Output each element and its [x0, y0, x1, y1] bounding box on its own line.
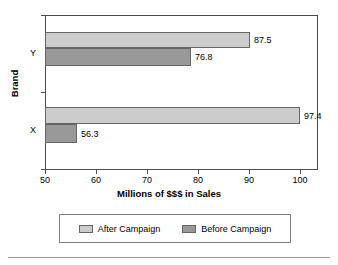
- bottom-divider-rule: [8, 257, 330, 258]
- ytick-mark-middle: [41, 92, 45, 93]
- y-axis-title: Brand: [9, 54, 20, 114]
- xtick-mark-50: [45, 170, 46, 174]
- xtick-mark-80: [198, 170, 199, 174]
- bar-x-before-campaign[interactable]: [45, 124, 77, 143]
- bar-label-y-after-campaign: 87.5: [254, 35, 272, 45]
- xtick-mark-60: [96, 170, 97, 174]
- xtick-mark-90: [249, 170, 250, 174]
- y-category-label-brand-x: X: [26, 125, 40, 135]
- xtick-label-90: 90: [234, 175, 264, 186]
- bar-label-y-before-campaign: 76.8: [195, 52, 213, 62]
- legend-swatch-after-campaign: [79, 225, 93, 233]
- bar-label-x-after-campaign: 97.4: [304, 111, 322, 121]
- bar-y-after-campaign[interactable]: [45, 32, 250, 48]
- legend-label-before-campaign: Before Campaign: [201, 224, 271, 234]
- legend-item-before-campaign[interactable]: Before Campaign: [182, 224, 271, 234]
- xtick-label-70: 70: [132, 175, 162, 186]
- xtick-mark-100: [300, 170, 301, 174]
- plot-area: 87.5 76.8 97.4 56.3: [45, 15, 318, 170]
- legend-label-after-campaign: After Campaign: [98, 224, 161, 234]
- ytick-mark-bottom: [41, 169, 45, 170]
- xtick-label-100: 100: [285, 175, 315, 186]
- xtick-label-60: 60: [81, 175, 111, 186]
- bar-x-after-campaign[interactable]: [45, 107, 300, 124]
- chart-legend: After Campaign Before Campaign: [59, 214, 291, 243]
- bar-label-x-before-campaign: 56.3: [81, 129, 99, 139]
- bar-chart-figure: 87.5 76.8 97.4 56.3 50 60 70 80 90 100 M…: [0, 0, 338, 265]
- legend-item-after-campaign[interactable]: After Campaign: [79, 224, 161, 234]
- xtick-label-50: 50: [30, 175, 60, 186]
- xtick-label-80: 80: [183, 175, 213, 186]
- legend-swatch-before-campaign: [182, 225, 196, 233]
- y-category-label-brand-y: Y: [26, 48, 40, 58]
- xtick-mark-70: [147, 170, 148, 174]
- ytick-mark-top: [41, 15, 45, 16]
- x-axis-title: Millions of $$$ in Sales: [0, 188, 338, 199]
- bar-y-before-campaign[interactable]: [45, 48, 191, 66]
